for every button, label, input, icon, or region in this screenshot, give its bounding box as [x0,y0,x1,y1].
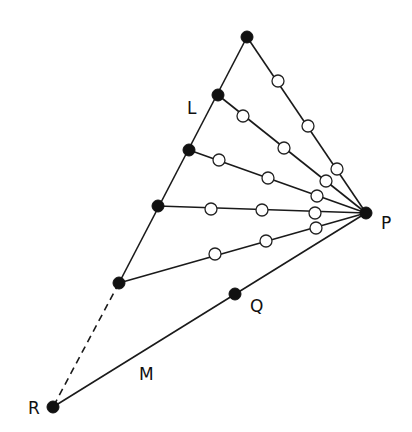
label-R: R [28,398,40,418]
open-node [310,222,322,234]
open-node [213,154,225,166]
fan-diagram: LPQMR [0,0,412,432]
edge-top-L4 [119,37,247,283]
open-node [309,207,321,219]
label-Q: Q [250,296,263,316]
edge-R-P [53,213,366,407]
open-node [237,110,249,122]
open-node [256,204,268,216]
open-node [205,203,217,215]
filled-node-top [241,31,253,43]
label-L: L [187,98,197,118]
open-node [209,248,221,260]
open-node [320,175,332,187]
filled-node-Q [229,288,241,300]
filled-node-L4 [113,277,125,289]
open-node [311,190,323,202]
label-P: P [381,213,391,233]
open-node [272,75,284,87]
filled-node-L2 [183,144,195,156]
open-node [331,163,343,175]
label-M: M [139,364,154,384]
open-node [302,120,314,132]
edges-group [53,37,366,407]
edge-L4-P [119,213,366,283]
filled-nodes-group [47,31,372,413]
filled-node-L1 [212,89,224,101]
open-node [260,235,272,247]
filled-node-P [360,207,372,219]
open-nodes-group [205,75,343,260]
filled-node-R [47,401,59,413]
edge-L4-R [53,283,119,407]
open-node [278,142,290,154]
open-node [262,172,274,184]
filled-node-L3 [152,200,164,212]
